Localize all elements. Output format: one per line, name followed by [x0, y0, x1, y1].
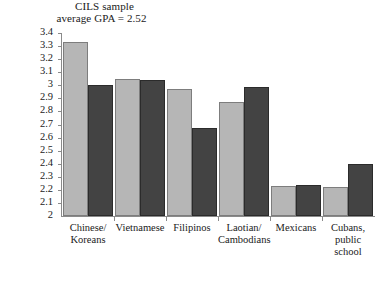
- y-axis-tick-label: 2.5: [40, 144, 53, 155]
- y-axis-tick-label: 2.9: [40, 91, 53, 102]
- bar: [348, 164, 373, 216]
- y-axis-tick-label: 2.4: [40, 157, 53, 168]
- chart-title: CILS sample average GPA = 2.52: [14, 1, 189, 24]
- chart-title-line-2: average GPA = 2.52: [14, 13, 189, 25]
- y-axis-tick-label: 3.4: [40, 26, 53, 37]
- x-axis-category-label: Cubans, public school: [322, 222, 374, 259]
- chart-title-line-1: CILS sample: [14, 1, 189, 13]
- y-axis-tick-label: 2: [48, 209, 53, 220]
- y-axis-tick-label: 2.2: [40, 183, 53, 194]
- x-axis-category-label: Filipinos: [166, 222, 218, 234]
- y-axis-tick-label: 3.1: [40, 65, 53, 76]
- x-axis-category-label: Chinese/ Koreans: [62, 222, 114, 246]
- y-axis-tick-label: 2.6: [40, 131, 53, 142]
- bar: [323, 187, 348, 216]
- y-axis-tick-label: 3.3: [40, 39, 53, 50]
- bar: [88, 85, 113, 216]
- x-axis-tick-mark: [166, 217, 167, 221]
- y-axis-tick-label: 3: [48, 78, 53, 89]
- bar: [271, 186, 296, 216]
- bar-chart-figure: CILS sample average GPA = 2.52 3.43.33.2…: [0, 0, 380, 282]
- plot-area: [62, 33, 374, 216]
- bar: [63, 42, 88, 216]
- bar: [167, 89, 192, 216]
- bar: [219, 102, 244, 216]
- x-axis-tick-mark: [114, 217, 115, 221]
- y-axis-tick-label: 2.3: [40, 170, 53, 181]
- bar: [244, 87, 269, 216]
- y-axis-tick-label: 2.7: [40, 118, 53, 129]
- bar: [296, 185, 321, 216]
- y-axis-tick-label: 2.1: [40, 196, 53, 207]
- bar: [192, 128, 217, 216]
- x-axis-category-label: Vietnamese: [114, 222, 166, 234]
- x-axis-tick-mark: [322, 217, 323, 221]
- bar: [115, 79, 140, 216]
- x-axis-tick-mark: [218, 217, 219, 221]
- bar: [140, 80, 165, 216]
- x-axis-category-label: Mexicans: [270, 222, 322, 234]
- y-axis-tick-label: 2.8: [40, 104, 53, 115]
- y-axis-tick-label: 3.2: [40, 52, 53, 63]
- x-axis-tick-mark: [270, 217, 271, 221]
- x-axis-category-label: Laotian/ Cambodians: [218, 222, 270, 246]
